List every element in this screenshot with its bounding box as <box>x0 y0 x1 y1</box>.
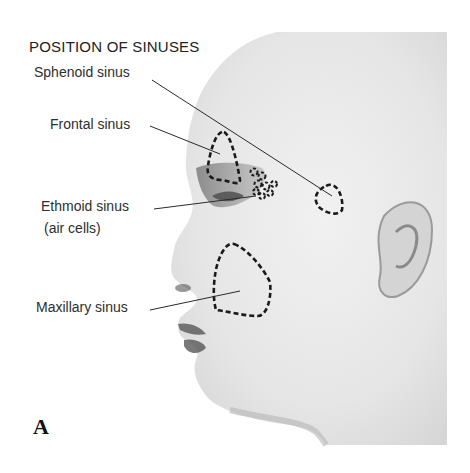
label-sphenoid-sinus: Sphenoid sinus <box>34 64 130 80</box>
label-ethmoid-air-cells: (air cells) <box>44 220 101 236</box>
figure-title: POSITION OF SINUSES <box>29 38 200 55</box>
label-maxillary-sinus: Maxillary sinus <box>36 299 128 315</box>
panel-letter: A <box>33 414 49 440</box>
nostril <box>175 284 191 292</box>
label-frontal-sinus: Frontal sinus <box>50 116 130 132</box>
label-ethmoid-sinus: Ethmoid sinus <box>41 198 129 214</box>
